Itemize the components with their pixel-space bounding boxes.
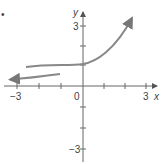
x-tick-label-0: 0 <box>74 91 80 102</box>
graph: • −3 0 3 x 3 −3 y <box>0 0 163 164</box>
x-axis-label: x <box>153 91 160 102</box>
curve-left-tail <box>10 74 60 80</box>
y-axis-label: y <box>72 7 79 18</box>
x-tick-label-3: 3 <box>143 91 149 102</box>
x-tick-label-neg3: −3 <box>10 91 22 102</box>
bullet: • <box>1 9 5 20</box>
y-tick-label-3: 3 <box>73 21 79 32</box>
curve <box>26 18 132 67</box>
y-tick-label-neg3: −3 <box>69 144 81 155</box>
